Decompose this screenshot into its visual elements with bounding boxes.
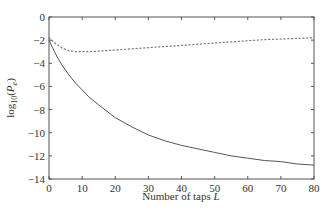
y-tick-label: −4 [33,57,45,69]
y-tick-label: −14 [28,173,46,185]
y-tick-label: 0 [40,11,46,23]
x-tick-label: 20 [110,182,122,194]
y-tick-label: −10 [28,127,46,139]
series-dotted-line [49,38,314,52]
x-tick-label: 60 [242,182,254,194]
y-tick-label: −8 [33,104,45,116]
y-tick-label: −12 [28,150,45,162]
x-tick-label: 0 [46,182,52,194]
x-tick-label: 70 [275,182,287,194]
y-axis-label: log10(Pe) [4,78,19,118]
series-layer [49,38,314,165]
line-chart: 0−2−4−6−8−10−12−14 01020304050607080 Num… [0,0,333,217]
y-axis: 0−2−4−6−8−10−12−14 [28,11,314,185]
plot-frame [49,17,314,179]
x-tick-label: 80 [309,182,321,194]
x-tick-label: 10 [77,182,89,194]
y-tick-label: −6 [33,80,45,92]
x-axis-label: Number of taps L [142,190,219,202]
x-axis: 01020304050607080 [46,17,320,194]
plot-area [49,17,314,179]
series-solid-line [49,40,314,165]
y-tick-label: −2 [33,34,45,46]
